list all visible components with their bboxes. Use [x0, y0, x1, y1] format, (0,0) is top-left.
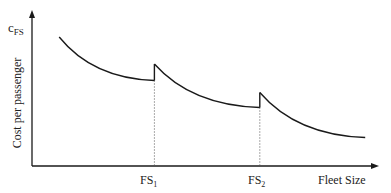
y-axis-arrow	[29, 10, 35, 18]
x-axis-label: Fleet Size	[318, 173, 366, 187]
cost-per-passenger-diagram: cFS Cost per passenger FS1 FS2 Fleet Siz…	[0, 0, 391, 193]
cost-curve-segment-2	[154, 64, 259, 108]
cost-curve-segment-3	[260, 93, 365, 138]
x-tick-fs2: FS2	[248, 173, 265, 189]
y-axis-symbol: cFS	[8, 20, 24, 37]
y-axis-label: Cost per passenger	[10, 58, 24, 149]
x-tick-fs1: FS1	[140, 173, 157, 189]
x-axis-arrow	[371, 163, 379, 169]
cost-curve-segment-1	[59, 37, 154, 81]
